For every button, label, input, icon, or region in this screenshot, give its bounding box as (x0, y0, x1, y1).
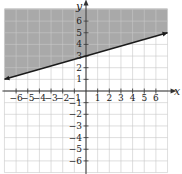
y-axis-arrow-icon (84, 0, 89, 5)
y-axis-label: y (75, 0, 83, 13)
y-tick-label: 6 (76, 16, 82, 26)
y-tick-label: 2 (76, 63, 82, 73)
y-tick-label: −5 (69, 144, 83, 154)
y-tick-label: −3 (69, 121, 83, 131)
x-tick-label: 5 (141, 93, 147, 103)
x-tick-label: 6 (153, 93, 159, 103)
y-tick-label: −1 (69, 98, 82, 108)
inequality-graph: −6−5−4−3−2−1123456−6−5−4−3−2−1123456 x y (0, 0, 182, 174)
y-tick-label: −2 (69, 109, 82, 119)
y-tick-label: 5 (76, 28, 82, 38)
x-tick-label: 3 (118, 93, 124, 103)
y-tick-label: −4 (69, 133, 83, 143)
y-tick-label: 1 (76, 74, 82, 84)
x-tick-label: 4 (130, 93, 136, 103)
x-tick-label: 1 (95, 93, 101, 103)
x-axis-label: x (174, 85, 181, 98)
x-tick-label: 2 (106, 93, 112, 103)
y-tick-label: −6 (69, 156, 83, 166)
y-tick-label: 3 (76, 51, 82, 61)
y-tick-label: 4 (76, 39, 82, 49)
